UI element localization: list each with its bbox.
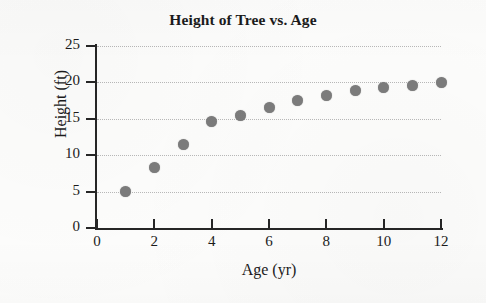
x-axis-tick-label: 4: [192, 233, 232, 250]
y-axis-title: Height (ft): [52, 34, 70, 174]
data-point: [178, 139, 189, 150]
data-point: [350, 85, 361, 96]
y-axis-tick: [86, 45, 97, 47]
x-axis-tick: [268, 219, 270, 230]
y-axis-tick: [86, 154, 97, 156]
data-point: [149, 162, 160, 173]
y-axis-line: [95, 44, 97, 230]
plot-area: [97, 46, 441, 228]
chart-screenshot: Height of Tree vs. Age 0510152025 024681…: [0, 0, 486, 303]
x-axis-tick: [325, 219, 327, 230]
x-axis-tick: [211, 219, 213, 230]
y-axis-tick: [86, 118, 97, 120]
gridline: [97, 46, 441, 48]
y-axis-tick: [86, 191, 97, 193]
x-axis-tick-label: 10: [364, 233, 404, 250]
data-point: [407, 80, 418, 91]
x-axis-tick-label: 12: [421, 233, 461, 250]
data-point: [292, 95, 303, 106]
data-point: [436, 77, 447, 88]
y-axis-tick-label: 0: [46, 218, 80, 235]
data-point: [120, 186, 131, 197]
chart-title: Height of Tree vs. Age: [0, 11, 486, 29]
x-axis-title: Age (yr): [97, 261, 441, 279]
x-axis-tick-label: 2: [134, 233, 174, 250]
x-axis-tick: [383, 219, 385, 230]
data-point: [264, 102, 275, 113]
y-axis-tick: [86, 81, 97, 83]
gridline: [97, 192, 441, 194]
gridline: [97, 82, 441, 84]
data-point: [206, 116, 217, 127]
gridline: [97, 155, 441, 157]
x-axis-tick-label: 6: [249, 233, 289, 250]
x-axis-tick: [153, 219, 155, 230]
data-point: [321, 90, 332, 101]
x-axis-tick: [96, 219, 98, 230]
x-axis-tick: [440, 219, 442, 230]
x-axis-tick-label: 8: [306, 233, 346, 250]
gridline: [97, 119, 441, 121]
data-point: [378, 82, 389, 93]
y-axis-tick-label: 5: [46, 182, 80, 199]
x-axis-tick-label: 0: [77, 233, 117, 250]
